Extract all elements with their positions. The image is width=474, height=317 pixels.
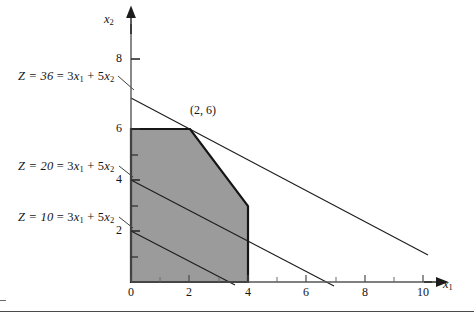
x-tick-label-2: 2 — [182, 285, 196, 300]
y-tick-label-8: 8 — [112, 51, 126, 66]
objective-label-z36-z: Z = 36 — [18, 69, 53, 83]
x-tick-label-10: 10 — [413, 285, 433, 300]
x-tick-label-8: 8 — [358, 285, 372, 300]
objective-label-z10-sub2: 2 — [110, 215, 114, 225]
objective-label-z10-plus: + 5 — [84, 210, 104, 224]
y-tick-label-6: 6 — [112, 121, 126, 136]
x-axis-label: x1 — [443, 277, 453, 292]
objective-label-z20-sub2: 2 — [110, 164, 114, 174]
objective-label-z36: Z = 36 = 3x1 + 5x2 — [18, 69, 114, 84]
objective-label-z20: Z = 20 = 3x1 + 5x2 — [18, 159, 114, 174]
left-margin-mark — [0, 300, 6, 301]
y-axis-label: x2 — [104, 12, 114, 27]
objective-label-z10-z: Z = 10 — [18, 210, 53, 224]
page-bottom-rule — [0, 311, 474, 312]
objective-label-z20-z: Z = 20 — [18, 159, 53, 173]
objective-label-z36-sub2: 2 — [110, 74, 114, 84]
x-tick-label-6: 6 — [299, 285, 313, 300]
objective-label-z10: Z = 10 = 3x1 + 5x2 — [18, 210, 114, 225]
y-axis-label-sub: 2 — [110, 17, 114, 27]
figure-canvas: x2 x1 8 6 4 2 0 2 4 6 8 10 (2, 6) Z = 36… — [0, 0, 474, 317]
objective-label-z36-plus: + 5 — [84, 69, 104, 83]
objective-label-z20-lead: = 3 — [53, 159, 73, 173]
x-tick-label-4: 4 — [241, 285, 255, 300]
objective-label-z36-lead: = 3 — [53, 69, 73, 83]
y-tick-label-2: 2 — [112, 223, 126, 238]
feasible-region — [131, 129, 248, 282]
y-tick-label-4: 4 — [112, 172, 126, 187]
x-axis-label-sub: 1 — [449, 282, 453, 292]
objective-label-z20-plus: + 5 — [84, 159, 104, 173]
objective-label-z10-lead: = 3 — [53, 210, 73, 224]
optimal-vertex-label: (2, 6) — [190, 103, 216, 118]
x-tick-label-0: 0 — [124, 285, 138, 300]
